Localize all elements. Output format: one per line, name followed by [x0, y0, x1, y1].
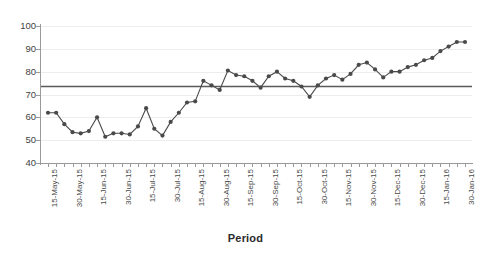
x-axis-tick — [162, 163, 163, 167]
x-axis-tick — [424, 163, 425, 167]
data-point — [422, 58, 426, 62]
x-axis-tick-label: 15-Dec-15 — [394, 169, 402, 206]
data-point — [87, 129, 91, 133]
data-point — [324, 76, 328, 80]
y-axis-tick-label: 80 — [2, 67, 36, 77]
x-axis-tick — [97, 163, 98, 167]
x-axis-tick-label: 15-Jul-15 — [149, 169, 157, 202]
data-point — [79, 131, 83, 135]
data-point — [218, 88, 222, 92]
data-point — [201, 79, 205, 83]
data-point — [332, 73, 336, 77]
x-axis-tick — [400, 163, 401, 167]
x-axis-tick — [449, 163, 450, 167]
y-axis-tick-label: 60 — [2, 112, 36, 122]
y-axis-tick-label: 70 — [2, 90, 36, 100]
x-axis-tick-label: 30-Dec-15 — [419, 169, 427, 206]
x-axis-tick — [408, 163, 409, 167]
x-axis-tick-label: 30-Sep-15 — [272, 169, 280, 206]
data-point — [463, 40, 467, 44]
data-point — [258, 86, 262, 90]
x-axis-tick — [342, 163, 343, 167]
x-axis-tick — [73, 163, 74, 167]
data-point — [299, 84, 303, 88]
x-axis-tick — [285, 163, 286, 167]
data-point — [308, 95, 312, 99]
data-point — [95, 115, 99, 119]
data-point — [185, 100, 189, 104]
data-point — [455, 40, 459, 44]
x-axis-tick — [154, 163, 155, 167]
x-axis-tick-label: 30-Nov-15 — [370, 169, 378, 206]
x-axis-tick — [269, 163, 270, 167]
x-axis-tick-label: 30-Oct-15 — [321, 169, 329, 205]
data-point — [46, 111, 50, 115]
data-point — [70, 130, 74, 134]
x-axis-tick-label: 30-Aug-15 — [223, 169, 231, 206]
data-point — [54, 111, 58, 115]
x-axis-tick — [440, 163, 441, 167]
data-point — [414, 63, 418, 67]
data-point — [283, 76, 287, 80]
data-point — [275, 70, 279, 74]
x-axis-tick — [89, 163, 90, 167]
x-axis-tick — [179, 163, 180, 167]
data-point — [267, 74, 271, 78]
data-point — [406, 65, 410, 69]
x-axis-title: Period — [0, 232, 491, 244]
data-point — [389, 70, 393, 74]
x-axis-tick — [244, 163, 245, 167]
data-point — [340, 78, 344, 82]
data-point — [430, 56, 434, 60]
x-axis-tick — [432, 163, 433, 167]
x-axis-tick-label: 15-Aug-15 — [198, 169, 206, 206]
x-axis-tick — [375, 163, 376, 167]
data-point — [316, 83, 320, 87]
x-axis-tick — [310, 163, 311, 167]
x-axis-tick — [326, 163, 327, 167]
x-axis-tick — [293, 163, 294, 167]
x-axis-tick-label: 30-May-15 — [76, 169, 84, 207]
data-point — [357, 63, 361, 67]
data-point — [152, 127, 156, 131]
y-axis-tick-label: 90 — [2, 44, 36, 54]
data-point — [348, 72, 352, 76]
x-axis-tick — [130, 163, 131, 167]
x-axis-tick — [105, 163, 106, 167]
x-axis-tick-label: 15-Oct-15 — [296, 169, 304, 205]
x-axis-tick — [383, 163, 384, 167]
x-axis-tick — [367, 163, 368, 167]
data-markers — [46, 40, 467, 139]
x-axis-tick — [465, 163, 466, 167]
data-point — [381, 75, 385, 79]
data-point — [365, 60, 369, 64]
data-point — [447, 44, 451, 48]
data-point — [291, 79, 295, 83]
x-axis-tick — [187, 163, 188, 167]
data-point — [144, 106, 148, 110]
x-axis-tick-label: 15-Sep-15 — [247, 169, 255, 206]
data-point — [160, 134, 164, 138]
data-line — [48, 42, 465, 137]
x-axis-tick — [56, 163, 57, 167]
x-axis-tick-label: 15-May-15 — [51, 169, 59, 207]
data-point — [242, 74, 246, 78]
x-axis-tick — [48, 163, 49, 167]
x-axis-tick — [64, 163, 65, 167]
data-point — [226, 68, 230, 72]
x-axis-tick-label: 30-Jan-16 — [468, 169, 476, 205]
data-point — [250, 79, 254, 83]
x-axis-tick — [334, 163, 335, 167]
data-point — [128, 132, 132, 136]
x-axis-tick-label: 30-Jul-15 — [174, 169, 182, 202]
data-point — [234, 73, 238, 77]
x-axis-tick — [212, 163, 213, 167]
x-axis-tick — [228, 163, 229, 167]
data-point — [136, 124, 140, 128]
plot-area — [41, 26, 472, 163]
data-point — [119, 131, 123, 135]
x-axis-tick — [195, 163, 196, 167]
x-axis-tick — [81, 163, 82, 167]
x-axis-tick — [301, 163, 302, 167]
series-svg — [41, 26, 472, 163]
